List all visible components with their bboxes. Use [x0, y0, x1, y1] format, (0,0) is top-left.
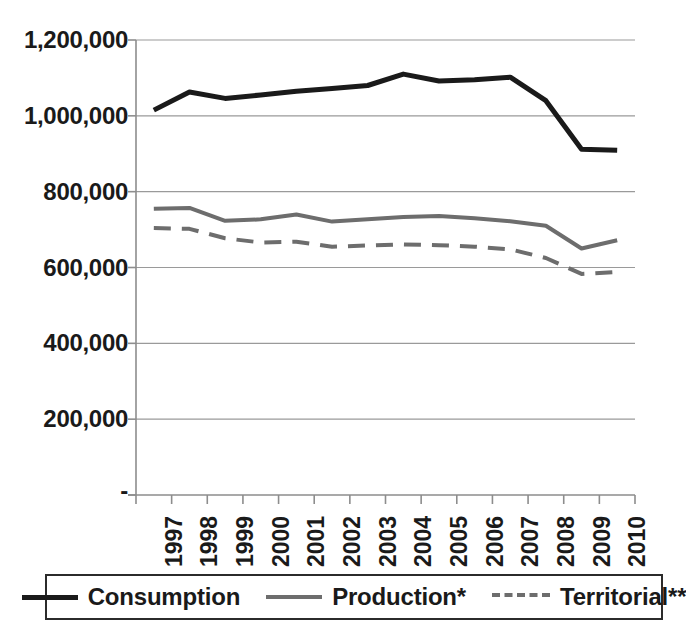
legend-item-label: Production*: [332, 583, 466, 611]
x-axis-tick-label: 2010: [626, 516, 649, 567]
x-axis-tick-label: 2002: [341, 516, 364, 567]
x-axis-tick-label: 2006: [484, 516, 507, 567]
legend-item-territorial[interactable]: Territorial**: [492, 583, 686, 611]
x-axis-tick-label: 2001: [305, 516, 328, 567]
x-axis-tick-label: 1998: [198, 516, 221, 567]
x-axis-tick-labels: 1997199819992000200120022003200420052006…: [0, 0, 686, 637]
legend-item-label: Consumption: [88, 583, 240, 611]
x-axis-tick-label: 2009: [591, 516, 614, 567]
legend-item-consumption[interactable]: Consumption: [22, 583, 240, 611]
x-axis-tick-label: 2003: [377, 516, 400, 567]
legend-swatch-icon: [22, 595, 78, 600]
x-axis-tick-label: 1997: [163, 516, 186, 567]
line-chart: 1,200,0001,000,000800,000600,000400,0002…: [0, 0, 686, 637]
legend-swatch-icon: [266, 595, 322, 599]
x-axis-tick-label: 2000: [270, 516, 293, 567]
x-axis-tick-label: 2004: [412, 516, 435, 567]
x-axis-tick-label: 2008: [555, 516, 578, 567]
legend-swatch-icon: [492, 593, 550, 601]
x-axis-tick-label: 2007: [519, 516, 542, 567]
legend-item-label: Territorial**: [560, 583, 686, 611]
chart-legend: ConsumptionProduction*Territorial**: [45, 574, 663, 620]
x-axis-tick-label: 1999: [234, 516, 257, 567]
x-axis-tick-label: 2005: [448, 516, 471, 567]
legend-item-production[interactable]: Production*: [266, 583, 466, 611]
